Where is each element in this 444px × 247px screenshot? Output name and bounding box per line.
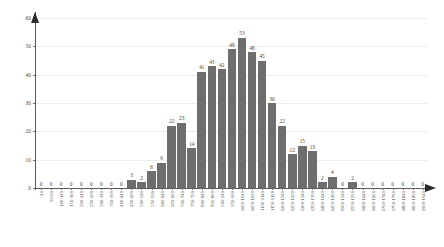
bar-slot: 0 [358, 18, 368, 188]
y-axis-tick-label: 40 [0, 72, 31, 78]
x-axis-tick-slot: 200-249 [76, 190, 86, 246]
x-axis-tick-mark [322, 188, 323, 190]
x-axis-tick-label: 1900-1949 [420, 191, 425, 211]
x-axis-tick-label: 1450-1499 [330, 191, 335, 211]
bar-value-label: 0 [411, 182, 414, 187]
bar-value-label: 0 [50, 182, 53, 187]
bar[interactable] [228, 49, 237, 188]
bar[interactable] [218, 69, 227, 188]
bar-value-label: 4 [331, 170, 334, 175]
bar-value-label: 43 [209, 60, 214, 65]
bar-value-label: 0 [361, 182, 364, 187]
bar-value-label: 0 [381, 182, 384, 187]
bar-slot: 0 [398, 18, 408, 188]
bar-slot: 4 [327, 18, 337, 188]
bar[interactable] [278, 126, 287, 188]
bar-value-label: 2 [321, 176, 324, 181]
bar-value-label: 2 [140, 176, 143, 181]
x-axis-tick-slot: 1700-1749 [378, 190, 388, 246]
x-axis-tick-slot: 100-149 [56, 190, 66, 246]
bar[interactable] [167, 126, 176, 188]
bar[interactable] [147, 171, 156, 188]
x-axis-tick-label: 800-849 [199, 191, 204, 207]
x-axis-tick-label: 1400-1449 [320, 191, 325, 211]
bar-slot: 42 [217, 18, 227, 188]
bar[interactable] [268, 103, 277, 188]
bar[interactable] [208, 66, 217, 188]
bar-slot: 13 [307, 18, 317, 188]
x-axis-tick-label: 100-149 [59, 191, 64, 207]
x-axis-tick-label: 450-499 [129, 191, 134, 207]
bar-slot: 45 [257, 18, 267, 188]
x-axis-tick-slot: 1850-1899 [408, 190, 418, 246]
x-axis-tick-slot: 950-999 [227, 190, 237, 246]
x-axis-tick-label: 300-349 [99, 191, 104, 207]
bar-value-label: 0 [371, 182, 374, 187]
bar-value-label: 0 [70, 182, 73, 187]
bar-slot: 0 [368, 18, 378, 188]
x-axis-tick-mark [332, 188, 333, 190]
bar-slot: 0 [86, 18, 96, 188]
bar[interactable] [127, 180, 136, 189]
x-axis-tick-slot: 50-99 [46, 190, 56, 246]
x-axis-tick-slot: 500-549 [136, 190, 146, 246]
x-axis-tick-label: 1200-1249 [280, 191, 285, 211]
x-axis-tick-slot: 1200-1249 [277, 190, 287, 246]
bar[interactable] [187, 148, 196, 188]
bar-slot: 9 [157, 18, 167, 188]
x-axis-tick-slot: 1100-1149 [257, 190, 267, 246]
x-axis-tick-mark [252, 188, 253, 190]
x-axis-tick-slot: 1050-1099 [247, 190, 257, 246]
x-axis-tick-slot: 900-949 [217, 190, 227, 246]
bar-value-label: 0 [110, 182, 113, 187]
x-axis-tick-slot: 1000-1049 [237, 190, 247, 246]
x-axis-tick-slot: 250-299 [86, 190, 96, 246]
bar-slot: 22 [167, 18, 177, 188]
x-axis-tick-slot: 1500-1549 [337, 190, 347, 246]
bar-slot: 12 [287, 18, 297, 188]
x-axis-tick-slot: 650-699 [167, 190, 177, 246]
bar-value-label: 9 [160, 156, 163, 161]
bar-value-label: 0 [60, 182, 63, 187]
bar[interactable] [328, 177, 337, 188]
bar-slot: 43 [207, 18, 217, 188]
x-axis-tick-mark [363, 188, 364, 190]
x-axis-tick-slot: 150-199 [66, 190, 76, 246]
bar-slot: 2 [317, 18, 327, 188]
x-axis-tick-label: 1150-1199 [270, 191, 275, 211]
x-axis-tick-label: 950-999 [229, 191, 234, 207]
bar[interactable] [197, 72, 206, 188]
x-axis-tick-label: 650-699 [169, 191, 174, 207]
bar-value-label: 0 [401, 182, 404, 187]
x-axis-tick-label: -49 [39, 191, 44, 197]
bar[interactable] [248, 52, 257, 188]
bar[interactable] [157, 163, 166, 189]
bar[interactable] [238, 38, 247, 188]
bar-value-label: 13 [310, 145, 315, 150]
x-axis-tick-mark [383, 188, 384, 190]
x-axis-tick-label: 850-899 [209, 191, 214, 207]
x-axis-tick-label: 1700-1749 [380, 191, 385, 211]
bar[interactable] [258, 61, 267, 189]
bar-slot: 48 [247, 18, 257, 188]
bar[interactable] [177, 123, 186, 188]
bar-value-label: 48 [249, 46, 254, 51]
bar[interactable] [288, 154, 297, 188]
bar[interactable] [308, 151, 317, 188]
x-axis-tick-label: 600-649 [159, 191, 164, 207]
x-axis-tick-slot: 600-649 [157, 190, 167, 246]
bar-value-label: 22 [169, 119, 174, 124]
x-axis-tick-label: 1300-1349 [300, 191, 305, 211]
bar[interactable] [298, 146, 307, 189]
x-axis-tick-slot: 800-849 [197, 190, 207, 246]
x-axis-tick-label: 1650-1699 [370, 191, 375, 211]
x-axis-tick-labels: -4950-99100-149150-199200-249250-299300-… [36, 190, 428, 246]
bar-value-label: 0 [40, 182, 43, 187]
bar-value-label: 0 [341, 182, 344, 187]
x-axis-tick-slot: 1900-1949 [418, 190, 428, 246]
x-axis-tick-slot: -49 [36, 190, 46, 246]
y-axis-tick-label: 60 [0, 15, 31, 21]
bar-slot: 2 [347, 18, 357, 188]
x-axis-tick-label: 550-599 [149, 191, 154, 207]
bar-slot: 0 [76, 18, 86, 188]
